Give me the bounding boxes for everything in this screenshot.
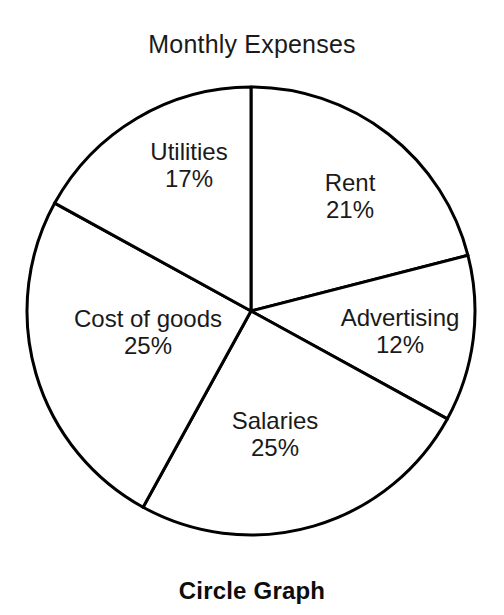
pie-chart-svg [0,0,504,615]
pie-slice-group [27,87,475,535]
circle-graph-figure: Monthly Expenses Rent 21% Advertising 12… [0,0,504,615]
chart-caption: Circle Graph [0,577,504,605]
